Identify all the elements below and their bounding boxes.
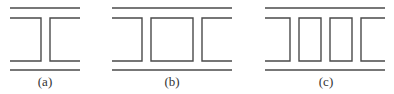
inner-cell [151, 18, 193, 61]
right-bracket [50, 18, 80, 61]
ladder-diagram: (a) (b) (c) [0, 0, 394, 94]
right-bracket [202, 18, 232, 61]
panel-label: (a) [38, 74, 52, 89]
left-bracket [112, 18, 142, 61]
inner-cell [330, 18, 352, 61]
left-bracket [265, 18, 290, 61]
left-bracket [10, 18, 41, 61]
panel-label: (c) [319, 74, 333, 89]
panel-label: (b) [164, 74, 179, 89]
right-bracket [361, 18, 385, 61]
inner-cell [299, 18, 321, 61]
panel-b: (b) [112, 8, 232, 89]
panel-a: (a) [10, 8, 80, 89]
panel-c: (c) [265, 8, 385, 89]
